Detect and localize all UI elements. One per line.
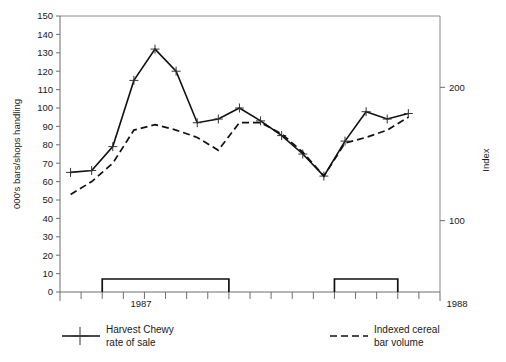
y-tick-label: 70 [42, 158, 53, 169]
legend: Harvest Chewy rate of sale Indexed cerea… [62, 324, 440, 348]
y-tick-label: 130 [37, 47, 53, 58]
y-tick-label: 20 [42, 250, 53, 261]
y2-tick-label: 100 [449, 215, 465, 226]
data-series [66, 45, 413, 195]
y-tick-label: 50 [42, 194, 53, 205]
data-point-marker [235, 104, 244, 113]
y-tick-label: 0 [48, 286, 53, 297]
legend-label-harvest-chewy-line1: Harvest Chewy [106, 324, 174, 335]
y-tick-label: 90 [42, 121, 53, 132]
legend-label-indexed-cereal-line1: Indexed cereal [374, 324, 440, 335]
y-axis-right: 100200 [440, 82, 465, 226]
period-bracket [334, 279, 397, 292]
legend-swatch-harvest-chewy [62, 327, 100, 345]
period-brackets [102, 279, 398, 292]
y-tick-label: 60 [42, 176, 53, 187]
y-tick-label: 100 [37, 102, 53, 113]
period-bracket [102, 279, 229, 292]
data-point-marker [129, 76, 138, 85]
line-chart: 0102030405060708090100110120130140150 00… [0, 0, 506, 362]
y-tick-label: 30 [42, 231, 53, 242]
data-point-marker [66, 168, 75, 177]
y2-tick-label: 200 [449, 82, 465, 93]
x-label-1988: 1988 [446, 298, 467, 309]
data-point-marker [193, 118, 202, 127]
y-axis-left: 0102030405060708090100110120130140150 [37, 10, 60, 297]
y-tick-label: 80 [42, 139, 53, 150]
chart-container: 0102030405060708090100110120130140150 00… [0, 0, 506, 362]
x-label-1987: 1987 [130, 298, 151, 309]
y-tick-label: 150 [37, 10, 53, 21]
data-point-marker [383, 115, 392, 124]
series-line-1 [71, 49, 409, 176]
plot-frame [60, 16, 440, 292]
y-axis-title: 000's bars/shops handling [11, 99, 22, 209]
x-axis [60, 292, 440, 301]
y-tick-label: 40 [42, 213, 53, 224]
y-tick-label: 10 [42, 268, 53, 279]
y-tick-label: 110 [38, 84, 53, 95]
legend-label-harvest-chewy-line2: rate of sale [106, 337, 156, 348]
data-point-marker [214, 115, 223, 124]
legend-label-indexed-cereal-line2: bar volume [374, 337, 424, 348]
y-tick-label: 120 [37, 66, 53, 77]
data-point-marker [404, 109, 413, 118]
series-line-2 [71, 117, 409, 194]
y-tick-label: 140 [37, 29, 53, 40]
y2-axis-title: Index [480, 148, 491, 171]
